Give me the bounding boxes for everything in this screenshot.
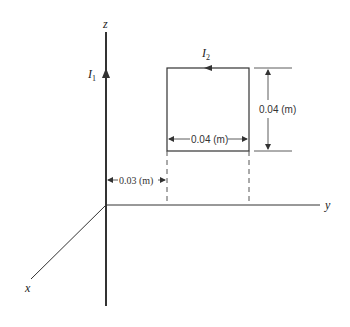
x-axis-label: x (24, 281, 31, 295)
width-dimension-label: 0.04 (m) (191, 134, 228, 145)
wire-current-label: I1 (87, 67, 96, 83)
current-i1-arrow-icon (102, 68, 110, 78)
height-dimension-label: 0.04 (m) (259, 104, 296, 115)
current-i2-arrow-icon (204, 65, 212, 71)
y-axis-label: y (324, 198, 331, 212)
x-axis (31, 205, 106, 279)
loop-current-label: I2 (201, 46, 210, 62)
separation-dimension-label: 0.03 (m) (119, 175, 153, 187)
diagram-canvas: z y x I1 I2 0.04 (m) 0.04 (m) 0.03 (m) (0, 0, 350, 327)
z-axis-label: z (102, 17, 108, 31)
